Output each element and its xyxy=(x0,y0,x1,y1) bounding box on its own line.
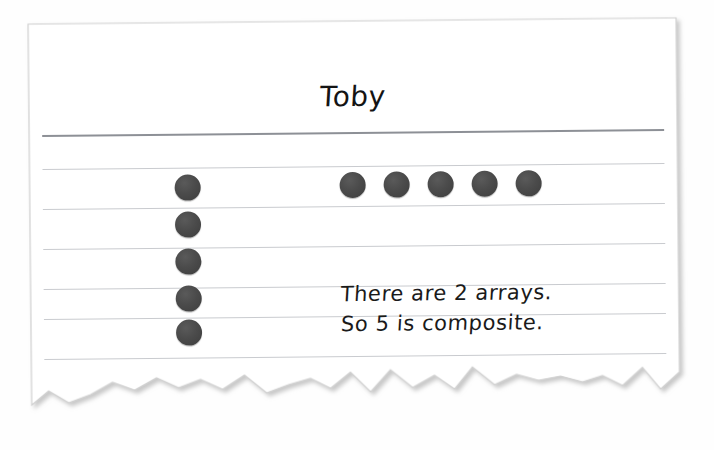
rule-line-3 xyxy=(43,243,665,250)
rule-line-1 xyxy=(42,163,664,170)
rule-line-6 xyxy=(44,353,666,360)
lined-paper-sheet: Toby There are 2 arrays. So 5 is composi… xyxy=(27,17,681,423)
array-dot xyxy=(175,174,201,200)
rule-line-heavy xyxy=(42,129,664,137)
rule-line-2 xyxy=(43,203,665,210)
array-dot xyxy=(384,171,410,197)
paper-content-layer: Toby There are 2 arrays. So 5 is composi… xyxy=(27,17,681,423)
array-dot xyxy=(340,172,366,198)
note-line-1: There are 2 arrays. xyxy=(340,280,553,306)
array-dot xyxy=(175,211,201,237)
array-dot xyxy=(428,171,454,197)
array-dot xyxy=(516,170,542,196)
array-dot xyxy=(472,171,498,197)
array-dot xyxy=(176,319,202,345)
array-dot xyxy=(175,248,201,274)
screenshot-canvas: Toby There are 2 arrays. So 5 is composi… xyxy=(0,0,714,450)
student-name-title: Toby xyxy=(27,77,679,116)
note-line-2: So 5 is composite. xyxy=(340,310,544,336)
array-dot xyxy=(176,285,202,311)
